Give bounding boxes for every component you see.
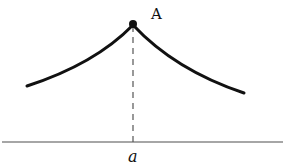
point-a-marker — [129, 20, 137, 28]
cusp-diagram: A a — [0, 0, 283, 164]
point-a-label: A — [150, 5, 162, 23]
axis-a-label: a — [128, 147, 138, 164]
left-curve-branch — [27, 25, 133, 86]
right-curve-branch — [133, 25, 244, 93]
